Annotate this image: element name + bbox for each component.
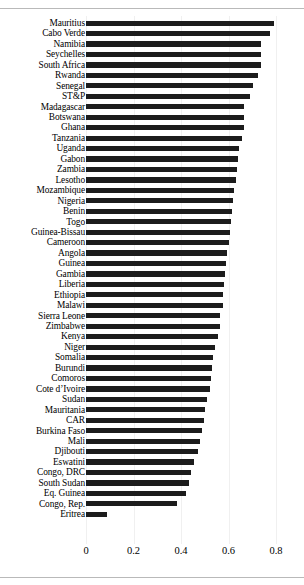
bar	[86, 386, 210, 391]
category-label: Somalia	[1, 352, 85, 362]
bar	[86, 470, 191, 475]
bar	[86, 480, 189, 485]
category-label: Niger	[1, 342, 85, 352]
bar-track	[86, 342, 304, 352]
category-label: Nigeria	[1, 196, 85, 206]
category-label: Gabon	[1, 154, 85, 164]
bar-row: Eswatini	[0, 457, 304, 467]
bar	[86, 115, 244, 120]
bar-row: Ethiopia	[0, 290, 304, 300]
bar-row: Benin	[0, 206, 304, 216]
bar	[86, 240, 229, 245]
bar	[86, 104, 244, 109]
bar-track	[86, 154, 304, 164]
bar-track	[86, 39, 304, 49]
category-label: Congo, Rep.	[1, 499, 85, 509]
x-axis-tick-labels: 00.20.40.60.8	[0, 544, 304, 564]
bar-row: Namibia	[0, 39, 304, 49]
bar-track	[86, 123, 304, 133]
bar	[86, 345, 215, 350]
bar-track	[86, 18, 304, 28]
bar	[86, 177, 236, 182]
bar-row: Guinea	[0, 258, 304, 268]
bar	[86, 52, 261, 57]
figure-bottom-rule	[0, 577, 304, 578]
x-tick-label: 0.8	[269, 544, 282, 558]
bar-track	[86, 321, 304, 331]
category-label: Rwanda	[1, 70, 85, 80]
bar-row: Gabon	[0, 154, 304, 164]
plot-area: MauritiusCabo VerdeNamibiaSeychellesSout…	[0, 16, 304, 544]
bar-row: Mauritania	[0, 405, 304, 415]
bar-row: Zimbabwe	[0, 321, 304, 331]
bar-track	[86, 436, 304, 446]
bar-track	[86, 112, 304, 122]
category-label: Sudan	[1, 394, 85, 404]
category-label: Botswana	[1, 112, 85, 122]
bar	[86, 219, 231, 224]
bar-row: Liberia	[0, 279, 304, 289]
bar	[86, 156, 238, 161]
bar-row: Tanzania	[0, 133, 304, 143]
bar-row: Eq. Guinea	[0, 488, 304, 498]
bar-row: Burundi	[0, 363, 304, 373]
bar	[86, 418, 204, 423]
bar-track	[86, 196, 304, 206]
bar-rows: MauritiusCabo VerdeNamibiaSeychellesSout…	[0, 16, 304, 544]
bar-track	[86, 217, 304, 227]
bar-row: Togo	[0, 217, 304, 227]
category-label: Lesotho	[1, 175, 85, 185]
bar-row: Guinea-Bissau	[0, 227, 304, 237]
category-label: Angola	[1, 248, 85, 258]
bar	[86, 428, 202, 433]
bar-track	[86, 499, 304, 509]
bar-track	[86, 405, 304, 415]
figure-top-rule	[0, 8, 304, 9]
category-label: Ghana	[1, 122, 85, 132]
bar	[86, 94, 250, 99]
bar-track	[86, 102, 304, 112]
category-label: Benin	[1, 206, 85, 216]
bar-track	[86, 384, 304, 394]
bar	[86, 188, 234, 193]
category-label: Burundi	[1, 363, 85, 373]
category-label: Cabo Verde	[1, 28, 85, 38]
x-tick-label: 0	[83, 544, 88, 558]
bar-row: Cabo Verde	[0, 28, 304, 38]
bar-row: Sudan	[0, 394, 304, 404]
bar-track	[86, 446, 304, 456]
bar-track	[86, 28, 304, 38]
bar-track	[86, 81, 304, 91]
bar-row: ST&P	[0, 91, 304, 101]
bar-track	[86, 311, 304, 321]
category-label: Eswatini	[1, 457, 85, 467]
category-label: Guinea-Bissau	[1, 227, 85, 237]
category-label: Ethiopia	[1, 290, 85, 300]
bar-track	[86, 290, 304, 300]
category-label: CAR	[1, 415, 85, 425]
bar-track	[86, 426, 304, 436]
bar-track	[86, 49, 304, 59]
category-label: Senegal	[1, 81, 85, 91]
bar	[86, 198, 233, 203]
bar	[86, 397, 207, 402]
category-label: ST&P	[1, 91, 85, 101]
category-label: Gambia	[1, 269, 85, 279]
category-label: Cote d’Ivoire	[1, 384, 85, 394]
bar-track	[86, 143, 304, 153]
bar	[86, 407, 205, 412]
bar	[86, 313, 220, 318]
bar	[86, 303, 223, 308]
category-label: Mozambique	[1, 185, 85, 195]
bar-row: Sierra Leone	[0, 311, 304, 321]
bar-row: Nigeria	[0, 196, 304, 206]
bar-track	[86, 394, 304, 404]
bar-track	[86, 373, 304, 383]
category-label: Malawi	[1, 300, 85, 310]
bar	[86, 449, 198, 454]
category-label: Sierra Leone	[1, 311, 85, 321]
bar-row: Congo, Rep.	[0, 499, 304, 509]
bar	[86, 334, 218, 339]
bar-track	[86, 269, 304, 279]
bar	[86, 491, 186, 496]
